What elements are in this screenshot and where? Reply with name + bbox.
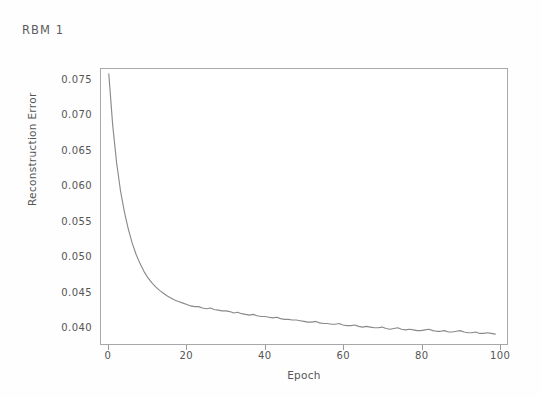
x-tick-label: 40 xyxy=(258,350,272,361)
line-chart-svg xyxy=(101,69,507,344)
x-tick-mark xyxy=(265,345,266,350)
y-tick-label: 0.055 xyxy=(61,215,92,226)
y-axis-tick-group: 0.0400.0450.0500.0550.0600.0650.0700.075 xyxy=(42,0,92,398)
x-tick-mark xyxy=(186,345,187,350)
x-tick-mark xyxy=(422,345,423,350)
x-tick-mark xyxy=(343,345,344,350)
y-tick-label: 0.050 xyxy=(61,251,92,262)
x-tick-mark xyxy=(500,345,501,350)
y-tick-label: 0.065 xyxy=(61,144,92,155)
x-tick-label: 80 xyxy=(415,350,429,361)
y-tick-label: 0.045 xyxy=(61,286,92,297)
y-tick-label: 0.060 xyxy=(61,180,92,191)
x-tick-label: 60 xyxy=(336,350,350,361)
y-tick-label: 0.075 xyxy=(61,73,92,84)
figure-canvas: RBM 1 Reconstruction Error 0.0400.0450.0… xyxy=(0,0,542,398)
x-tick-mark xyxy=(108,345,109,350)
x-tick-label: 20 xyxy=(180,350,194,361)
y-axis-label: Reconstruction Error xyxy=(26,46,38,206)
plot-area xyxy=(100,68,508,345)
y-tick-label: 0.040 xyxy=(61,322,92,333)
y-tick-label: 0.070 xyxy=(61,109,92,120)
x-tick-label: 100 xyxy=(490,350,510,361)
x-tick-label: 0 xyxy=(104,350,111,361)
reconstruction-error-line xyxy=(109,74,495,334)
x-axis-label: Epoch xyxy=(100,369,508,381)
